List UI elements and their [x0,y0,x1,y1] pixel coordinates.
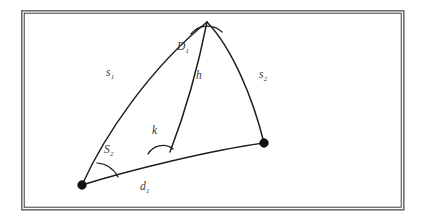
label-angle-S2-sub: 2 [110,150,114,158]
geometry-diagram: s1 D1 h s2 k S2 d1 [0,0,427,221]
curve-side-s2 [207,22,264,143]
label-angle-k: k [152,124,158,136]
label-side-s1: s1 [106,66,114,81]
label-angle-k-base: k [152,124,158,136]
label-angle-D1-sub: 1 [186,47,190,55]
label-side-s1-sub: 1 [111,73,115,81]
label-altitude-h: h [196,69,202,81]
label-angle-S2: S2 [104,143,114,158]
label-angle-D1: D1 [176,40,189,55]
vertex-dot-left [78,181,87,190]
label-side-s2-sub: 2 [264,75,268,83]
label-base-d1-sub: 1 [146,187,150,195]
curve-altitude-h [170,22,207,152]
label-side-s2: s2 [259,68,268,83]
vertex-dot-right [260,139,269,148]
outer-border-inner-line [24,13,401,207]
angle-arc-k [148,146,173,154]
label-angle-D1-base: D [176,40,186,52]
figure-container: s1 D1 h s2 k S2 d1 [0,0,427,221]
outer-border [22,11,404,210]
label-altitude-h-base: h [196,69,202,81]
label-base-d1: d1 [140,180,150,195]
